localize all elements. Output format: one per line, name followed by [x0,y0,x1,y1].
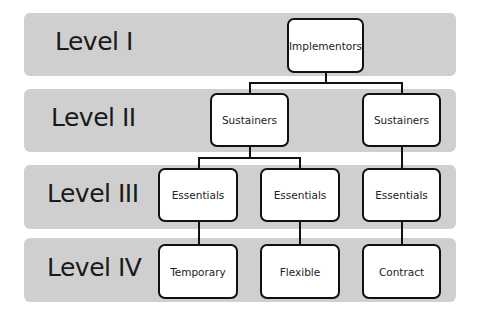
level-4-label: Level IV [47,253,141,282]
node-essentials-mid: Essentials [260,168,340,222]
level-2-label: Level II [51,103,136,132]
connector [401,221,403,245]
connector [401,146,403,169]
node-flexible: Flexible [260,244,340,299]
connector [198,221,200,245]
node-temporary: Temporary [158,244,238,299]
level-1-label: Level I [55,27,133,56]
node-sustainers-left: Sustainers [210,93,289,147]
node-implementors: Implementors [287,18,364,73]
node-essentials-right: Essentials [362,168,441,222]
node-contract: Contract [362,244,441,299]
connector [198,157,301,159]
connector [249,82,403,84]
level-3-label: Level III [47,179,139,208]
connector [299,221,301,245]
node-sustainers-right: Sustainers [362,93,441,147]
node-essentials-left: Essentials [158,168,238,222]
